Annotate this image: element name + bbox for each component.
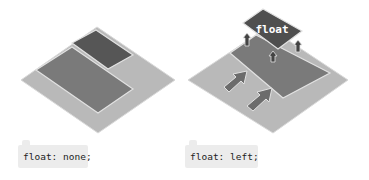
diagram-float-left: float xyxy=(188,9,348,133)
caption-tab xyxy=(22,140,30,146)
caption-tab xyxy=(189,140,197,146)
caption-text: float: none; xyxy=(23,151,92,162)
diagram-float-none xyxy=(21,27,175,133)
caption-float-none: float: none; xyxy=(18,145,88,168)
caption-float-left: float: left; xyxy=(185,145,258,168)
floated-block-label: float xyxy=(255,23,288,36)
caption-text: float: left; xyxy=(190,151,259,162)
